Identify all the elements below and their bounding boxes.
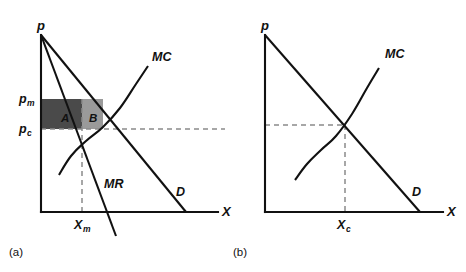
panel-a-pm-label-subscript: m xyxy=(27,98,35,108)
panel-a-pm-label-base: p xyxy=(18,92,27,106)
panel-a-xm-label-subscript: m xyxy=(83,224,91,234)
panel-b-caption: (b) xyxy=(233,246,247,258)
panel-a-y-axis-label: p xyxy=(36,18,45,33)
figure-background xyxy=(0,0,466,272)
panel-b-xc-label-base: X xyxy=(336,218,346,232)
panel-a-mr-curve-label: MR xyxy=(104,177,123,191)
panel-a-caption: (a) xyxy=(9,246,23,258)
panel-a-pc-label-base: p xyxy=(18,122,27,136)
panel-b-x-axis-label: X xyxy=(446,204,457,219)
two-panel-monopoly-competition-diagram: p X MC MR D p m p c X m A B (a) xyxy=(0,0,466,272)
panel-b-y-axis-label: p xyxy=(260,18,269,33)
shaded-region-a-label: A xyxy=(60,112,69,124)
panel-a-demand-curve-label: D xyxy=(176,185,185,199)
shaded-region-b-label: B xyxy=(89,112,97,124)
panel-b-mc-curve-label: MC xyxy=(385,47,405,61)
panel-a-mc-curve-label: MC xyxy=(152,50,172,64)
panel-b-xc-label-subscript: c xyxy=(346,224,351,234)
panel-a-xm-label-base: X xyxy=(73,218,83,232)
panel-a-pc-label-subscript: c xyxy=(27,128,32,138)
panel-b-demand-curve-label: D xyxy=(412,185,421,199)
panel-a-x-axis-label: X xyxy=(221,204,232,219)
